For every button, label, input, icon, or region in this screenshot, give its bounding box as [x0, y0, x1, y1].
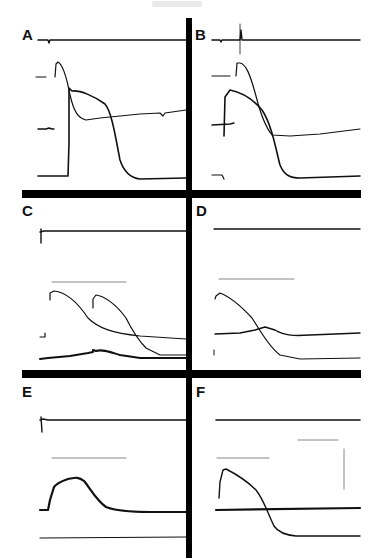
horizontal-divider-bottom [22, 370, 361, 378]
baseline-marker [40, 333, 45, 337]
horizontal-divider-top [22, 190, 361, 198]
stimulus-trace [40, 229, 186, 243]
action-potential-1 [236, 63, 360, 136]
vertical-divider [186, 18, 192, 558]
panel-label-e: E [22, 384, 32, 399]
baseline-2 [212, 123, 234, 125]
panel-label-b: B [195, 27, 206, 42]
action-potential-2 [224, 90, 360, 178]
panel-a-traces [36, 40, 186, 179]
action-potential-2 [93, 295, 186, 355]
panel-label-d: D [196, 203, 207, 218]
panel-label-f: F [196, 384, 205, 399]
action-potential [219, 469, 360, 536]
panel-d-traces [214, 229, 360, 359]
action-potential-1 [215, 293, 360, 359]
stimulus-trace [38, 40, 186, 43]
stimulus-trace [212, 30, 360, 42]
trace-layer [36, 24, 360, 538]
panel-c-traces [40, 229, 186, 359]
baseline-flat [216, 508, 360, 510]
panel-label-c: C [22, 203, 33, 218]
baseline-2 [40, 537, 186, 538]
calcium-trace [215, 327, 360, 335]
panel-label-a: A [22, 27, 33, 42]
baseline-2 [38, 128, 54, 129]
baseline-3 [212, 175, 224, 179]
panel-e-traces [40, 417, 186, 538]
panel-f-traces [216, 420, 360, 536]
stimulus-trace [40, 417, 186, 432]
calcium-transient [40, 478, 186, 512]
action-potential-1 [50, 291, 186, 339]
panel-b-traces [212, 24, 360, 179]
action-potential-2 [38, 88, 186, 179]
